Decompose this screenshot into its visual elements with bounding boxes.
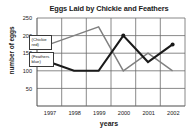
chickie-legend-line2: red)	[32, 42, 50, 47]
grid-lines	[37, 18, 185, 106]
plot-area	[0, 0, 188, 133]
feathers-legend: (Feathers blue)	[29, 52, 54, 67]
chickie-legend: (Chickie red)	[29, 35, 52, 50]
line-chart: Eggs Laid by Chickie and Feathers number…	[0, 0, 188, 133]
feathers-legend-line2: blue)	[32, 59, 52, 64]
